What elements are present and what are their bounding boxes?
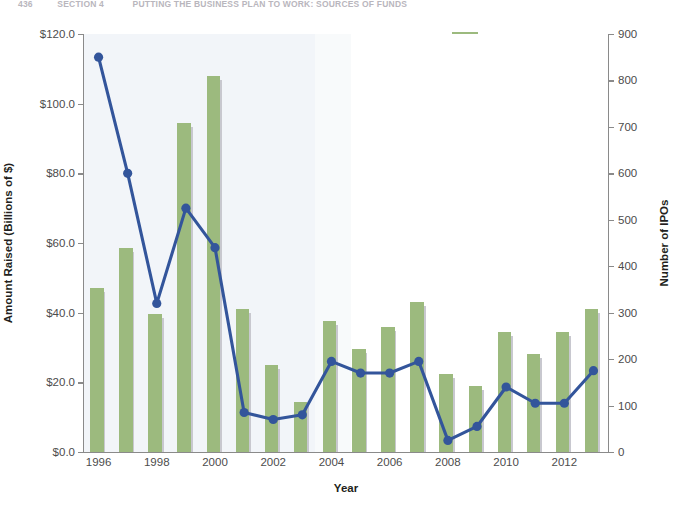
x-axis-tick-label: 2012 [552, 456, 578, 468]
line-marker [531, 399, 540, 408]
y-axis-right-tick [609, 359, 614, 360]
x-axis-tick-label: 2004 [319, 456, 345, 468]
y-axis-left-tick-label: $120.0 [40, 28, 75, 40]
x-axis-line [83, 452, 609, 453]
y-axis-right-tick-label: 800 [618, 74, 637, 86]
figure-page: 436 SECTION 4 PUTTING THE BUSINESS PLAN … [0, 0, 678, 508]
y-axis-left-tick [78, 104, 83, 105]
y-axis-right-tick [609, 34, 614, 35]
y-axis-right-tick-label: 900 [618, 28, 637, 40]
running-header: 436 SECTION 4 PUTTING THE BUSINESS PLAN … [0, 0, 678, 11]
y-axis-right-tick-label: 700 [618, 121, 637, 133]
line-marker [240, 408, 249, 417]
line-marker [298, 410, 307, 419]
y-axis-right-tick [609, 127, 614, 128]
line-marker [152, 299, 161, 308]
y-axis-left-tick [78, 382, 83, 383]
y-axis-right-tick [609, 452, 614, 453]
line-marker [385, 368, 394, 377]
y-axis-right-tick-label: 200 [618, 353, 637, 365]
line-path [99, 57, 594, 440]
section-title: PUTTING THE BUSINESS PLAN TO WORK: SOURC… [133, 0, 408, 9]
y-axis-left-tick [78, 313, 83, 314]
y-axis-left-tick-label: $0.0 [53, 446, 75, 458]
x-axis-tick-label: 1996 [86, 456, 112, 468]
y-axis-right-title: Number of IPOs [658, 200, 670, 287]
y-axis-left-tick-label: $20.0 [46, 376, 75, 388]
y-axis-right-tick-label: 300 [618, 307, 637, 319]
chart-figure: $ Raised (Billions) Number Amount Raised… [0, 14, 678, 508]
x-axis-tick-label: 2002 [260, 456, 286, 468]
y-axis-right-tick [609, 313, 614, 314]
y-axis-right-tick-label: 0 [618, 446, 624, 458]
line-marker [589, 366, 598, 375]
y-axis-left-title: Amount Raised (Billions of $) [2, 163, 14, 323]
y-axis-right-tick [609, 80, 614, 81]
y-axis-right-tick-label: 400 [618, 260, 637, 272]
x-axis-tick-label: 2000 [202, 456, 228, 468]
y-axis-right-tick-label: 500 [618, 214, 637, 226]
line-series [84, 34, 608, 452]
plot-area: $0.0$20.0$40.0$60.0$80.0$100.0$120.0 010… [84, 34, 608, 452]
y-axis-left-tick [78, 452, 83, 453]
y-axis-right-tick [609, 266, 614, 267]
line-marker [181, 204, 190, 213]
y-axis-left-tick-label: $40.0 [46, 307, 75, 319]
line-marker [472, 422, 481, 431]
line-marker [94, 53, 103, 62]
line-marker [327, 357, 336, 366]
y-axis-left-line [83, 34, 84, 452]
y-axis-left-tick [78, 173, 83, 174]
line-marker [356, 368, 365, 377]
x-axis-tick-label: 1998 [144, 456, 170, 468]
y-axis-left-tick [78, 34, 83, 35]
x-axis-tick-label: 2008 [435, 456, 461, 468]
y-axis-left-tick-label: $80.0 [46, 167, 75, 179]
y-axis-right-tick [609, 173, 614, 174]
line-marker [123, 169, 132, 178]
y-axis-left-tick-label: $100.0 [40, 98, 75, 110]
line-marker [414, 357, 423, 366]
page-number: 436 [18, 0, 33, 9]
y-axis-right-tick-label: 100 [618, 400, 637, 412]
y-axis-right-tick [609, 406, 614, 407]
line-marker [210, 243, 219, 252]
line-marker [560, 399, 569, 408]
line-markers [94, 53, 598, 445]
y-axis-left-tick [78, 243, 83, 244]
x-axis-tick-label: 2010 [493, 456, 519, 468]
book-section: SECTION 4 [57, 0, 104, 9]
line-marker [269, 415, 278, 424]
y-axis-right-line [608, 34, 609, 452]
line-marker [443, 436, 452, 445]
line-marker [502, 382, 511, 391]
y-axis-left-tick-label: $60.0 [46, 237, 75, 249]
y-axis-right-tick-label: 600 [618, 167, 637, 179]
x-axis-title: Year [334, 482, 358, 494]
y-axis-right-tick [609, 220, 614, 221]
x-axis-tick-label: 2006 [377, 456, 403, 468]
